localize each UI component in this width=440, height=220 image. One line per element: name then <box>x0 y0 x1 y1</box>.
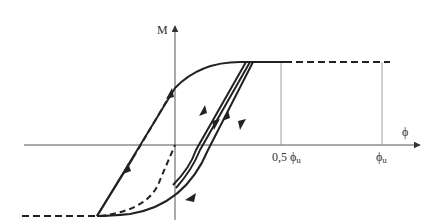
phi-u-label: ϕu <box>376 151 387 163</box>
arrow-up-left-dashed <box>166 88 174 99</box>
half-phi-u-sub: u <box>296 155 301 165</box>
phi-axis-label: ϕ <box>402 126 408 138</box>
arrow-up-inner <box>222 110 230 121</box>
arrow-down-outer <box>238 119 246 130</box>
dashed-reload-curve <box>100 145 175 216</box>
phi-u-sub: u <box>382 155 387 165</box>
half-phi-u-main: 0,5 ϕ <box>272 150 296 164</box>
arrow-up-outer <box>199 105 207 116</box>
m-axis-label: M <box>157 24 168 36</box>
arrow-left-bottom <box>185 193 196 202</box>
half-phi-u-label: 0,5 ϕu <box>272 151 301 163</box>
outer-loop-upper <box>97 62 248 216</box>
hysteresis-diagram <box>0 0 440 220</box>
